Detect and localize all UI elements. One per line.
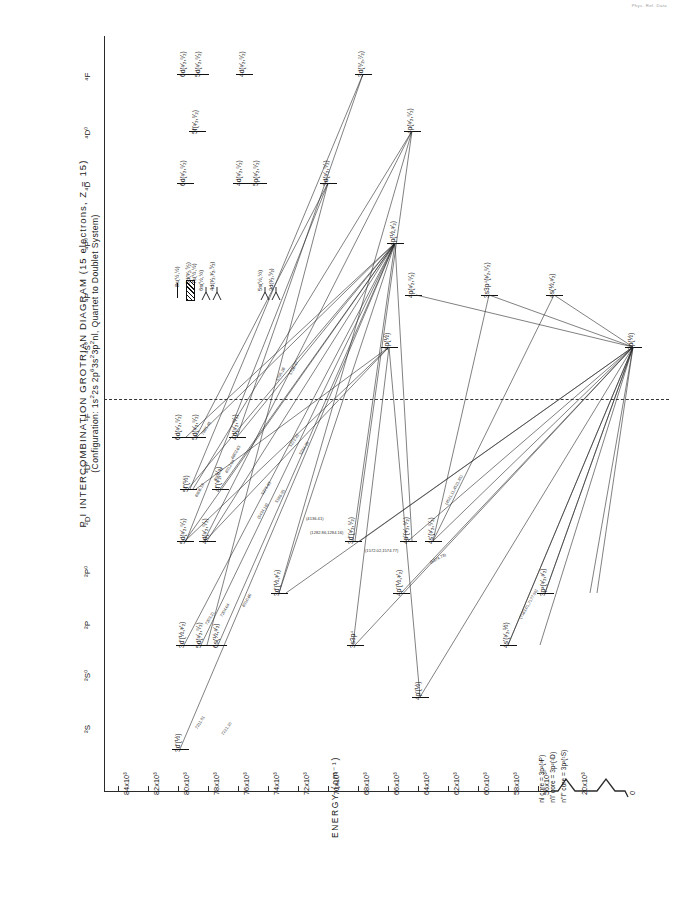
legend-branch-marks — [0, 0, 685, 900]
core-configuration-notes: nl core = 3p²(³P) n'l' core = 3p²(¹D) n'… — [537, 750, 570, 803]
legend-label: 6s(½,½) — [198, 270, 204, 291]
legend-label: 4d(³⁄₂,³⁄₂,⁵⁄₂) — [209, 262, 215, 291]
core-note: n'l' core = 3p²(¹D) — [548, 750, 559, 803]
legend-label: 3d(³⁄₂,⁵⁄₂) — [268, 268, 274, 291]
core-note: nl core = 3p²(³P) — [537, 750, 548, 803]
legend-label: 5s(½,½) — [257, 270, 263, 291]
core-note: n''l'' core = 3p²(¹S) — [559, 750, 570, 803]
